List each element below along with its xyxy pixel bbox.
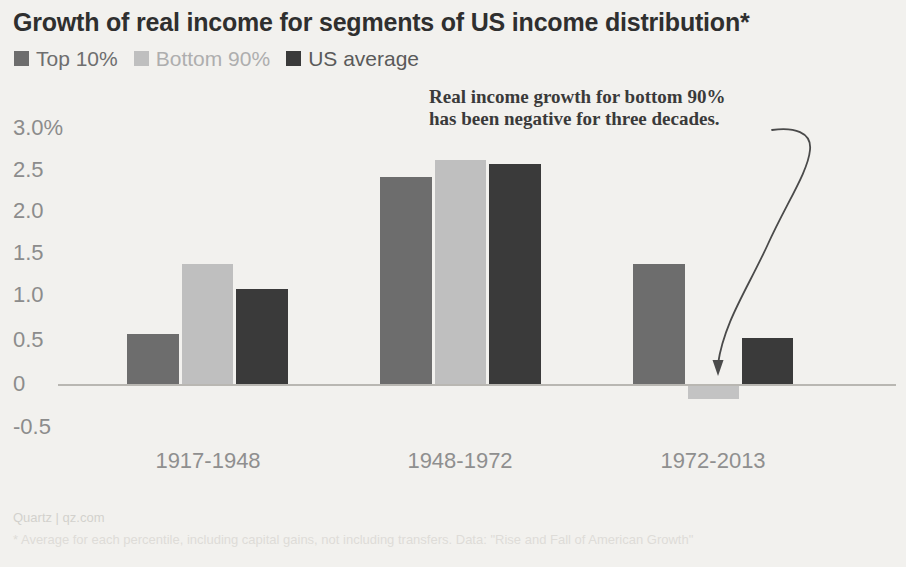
- y-tick-label-1-0: 1.0: [13, 284, 44, 306]
- chart-footer: Quartz | qz.com * Average for each perce…: [13, 508, 903, 549]
- x-tick-label-1948-1972: 1948-1972: [407, 450, 512, 472]
- y-tick-label-2-0: 2.0: [13, 200, 44, 222]
- zero-baseline: [58, 384, 896, 386]
- bar-1948-1972-top-10[interactable]: [380, 177, 432, 384]
- footer-source: Quartz | qz.com: [13, 508, 903, 528]
- bar-1972-2013-top-10[interactable]: [633, 264, 685, 384]
- bar-1972-2013-us-average[interactable]: [742, 338, 793, 384]
- chart-container: Growth of real income for segments of US…: [0, 0, 906, 567]
- bar-1948-1972-us-average[interactable]: [489, 164, 541, 384]
- bar-1972-2013-bottom-90[interactable]: [688, 386, 739, 399]
- y-tick-label-2-5: 2.5: [13, 159, 44, 181]
- y-tick-label-0-5: 0.5: [13, 329, 44, 351]
- x-tick-label-1917-1948: 1917-1948: [155, 450, 260, 472]
- bar-1917-1948-us-average[interactable]: [236, 289, 288, 384]
- bar-1917-1948-bottom-90[interactable]: [182, 264, 233, 384]
- y-tick-label-3-0: 3.0%: [13, 117, 63, 139]
- y-tick-label-1-5: 1.5: [13, 242, 44, 264]
- y-tick-label-neg-0-5: -0.5: [13, 416, 51, 438]
- bar-1917-1948-top-10[interactable]: [127, 334, 179, 384]
- bar-1948-1972-bottom-90[interactable]: [435, 160, 486, 384]
- plot-area: 3.0% 2.5 2.0 1.5 1.0 0.5 0 -0.5 1917-194…: [0, 0, 906, 567]
- y-tick-label-0: 0: [13, 373, 25, 395]
- x-tick-label-1972-2013: 1972-2013: [660, 450, 765, 472]
- footer-note: * Average for each percentile, including…: [13, 530, 903, 550]
